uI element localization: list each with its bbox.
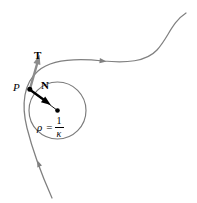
fraction-numerator: 1	[55, 116, 64, 127]
tangent-vector-label: T	[34, 50, 41, 61]
radius-of-curvature-equation: ρ = 1 κ	[37, 116, 64, 139]
one-over-kappa-fraction: 1 κ	[55, 116, 64, 139]
rho-symbol: ρ	[37, 122, 42, 133]
fraction-denominator: κ	[55, 128, 64, 139]
center-of-curvature-dot	[55, 108, 60, 113]
figure-canvas	[0, 0, 197, 203]
normal-vector-arrow	[30, 90, 53, 108]
curve-direction-arrowhead-upper	[99, 58, 107, 64]
normal-vector-label: N	[41, 80, 49, 91]
point-p-label: P	[13, 82, 20, 93]
plane-curve	[24, 13, 186, 198]
point-p-marker	[27, 87, 32, 92]
equals-sign: =	[46, 122, 52, 133]
osculating-circle-figure: T N P ρ = 1 κ	[0, 0, 197, 203]
curve-direction-arrowhead-lower	[35, 159, 42, 167]
